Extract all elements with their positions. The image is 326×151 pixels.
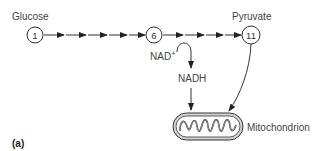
node-6-number: 6 — [151, 30, 156, 41]
node-11-number: 11 — [246, 30, 256, 41]
nadh-label: NADH — [178, 73, 206, 84]
panel-label: (a) — [12, 138, 24, 149]
node-1: 1 — [27, 27, 43, 43]
node-11: 11 — [242, 26, 260, 44]
node-6: 6 — [146, 27, 162, 43]
glucose-label: Glucose — [12, 11, 49, 22]
nad-plus-label: NAD+ — [150, 50, 175, 62]
pyruvate-label: Pyruvate — [232, 11, 272, 22]
glycolysis-diagram: Glucose Pyruvate 1 6 11 NAD+ NADH — [0, 0, 326, 151]
nad-to-nadh-arrow — [177, 43, 191, 68]
mitochondrion-icon — [173, 113, 243, 140]
pyruvate-to-mitochondrion-arrow — [229, 44, 251, 111]
node-1-number: 1 — [32, 30, 37, 41]
mitochondrion-label: Mitochondrion — [247, 122, 310, 133]
